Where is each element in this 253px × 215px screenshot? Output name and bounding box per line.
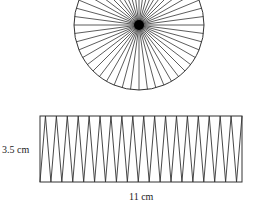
circle-spoke: [139, 25, 202, 42]
sectored-circle: [74, 0, 204, 90]
circle-spoke: [76, 25, 139, 42]
width-label: 11 cm: [129, 191, 154, 202]
height-label: 3.5 cm: [2, 144, 29, 155]
center-dot: [134, 20, 144, 30]
circle-spoke: [122, 25, 139, 88]
sector-zigzag: [40, 116, 242, 182]
circle-spoke: [139, 25, 156, 88]
circle-area-diagram: 3.5 cm 11 cm: [0, 0, 253, 215]
circle-spoke: [139, 8, 202, 25]
rearranged-rectangle: [40, 116, 242, 182]
circle-spoke: [76, 8, 139, 25]
